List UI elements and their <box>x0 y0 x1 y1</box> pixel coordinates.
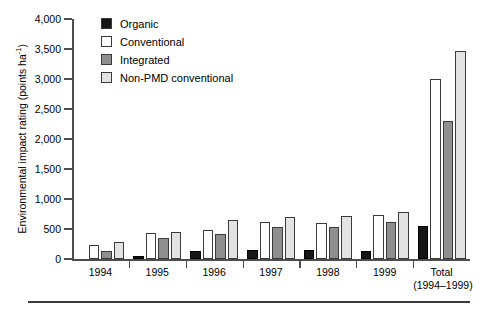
y-tick-label-500: 500 <box>43 223 61 235</box>
bar-1996-non-pmd-conventional <box>228 220 239 259</box>
legend-item-organic: Organic <box>101 16 233 32</box>
y-tick-label-1000: 1,000 <box>35 193 61 205</box>
chart-figure: Environmental impact rating (points ha-1… <box>0 0 482 312</box>
bar-1997-conventional <box>260 222 271 259</box>
x-axis-label-total: Total(1994–1999) <box>413 266 470 292</box>
legend-item-non-pmd-conventional: Non-PMD conventional <box>101 70 233 86</box>
bar-1995-integrated <box>158 238 169 259</box>
bar-1996-organic <box>190 251 201 259</box>
y-tick-1500 <box>64 168 72 169</box>
y-tick-label-3000: 3,000 <box>35 73 61 85</box>
bar-group-total <box>418 19 466 259</box>
y-tick-label-2500: 2,500 <box>35 103 61 115</box>
bar-1997-organic <box>247 250 258 259</box>
bar-total-integrated <box>443 121 454 259</box>
legend-item-integrated: Integrated <box>101 52 233 68</box>
bar-group-1997 <box>247 19 295 259</box>
y-tick-3500 <box>64 48 72 49</box>
y-axis-title: Environmental impact rating (points ha-1… <box>14 14 28 264</box>
bar-1998-conventional <box>316 223 327 259</box>
x-axis-sublabel-total: (1994–1999) <box>413 279 470 292</box>
bar-1999-conventional <box>373 215 384 259</box>
bar-group-1998 <box>304 19 352 259</box>
legend-swatch-icon-conventional <box>101 36 112 47</box>
x-axis-label-1999: 1999 <box>356 266 413 279</box>
y-tick-label-2000: 2,000 <box>35 133 61 145</box>
y-tick-4000 <box>64 18 72 19</box>
x-axis-label-1994: 1994 <box>72 266 129 279</box>
legend-label: Non-PMD conventional <box>120 72 233 84</box>
y-axis-line <box>72 19 74 260</box>
bar-1994-conventional <box>89 245 100 259</box>
y-tick-label-0: 0 <box>55 253 61 265</box>
bar-1994-non-pmd-conventional <box>114 242 125 259</box>
bar-1998-organic <box>304 250 315 259</box>
bar-total-non-pmd-conventional <box>455 51 466 259</box>
y-tick-3000 <box>64 78 72 79</box>
bar-group-1999 <box>361 19 409 259</box>
y-tick-500 <box>64 228 72 229</box>
legend-label: Integrated <box>120 54 170 66</box>
x-axis-label-1998: 1998 <box>299 266 356 279</box>
bar-1999-integrated <box>386 222 397 259</box>
y-tick-label-4000: 4,000 <box>35 13 61 25</box>
y-tick-2500 <box>64 108 72 109</box>
legend-swatch-icon-non-pmd-conventional <box>101 72 112 83</box>
y-tick-2000 <box>64 138 72 139</box>
y-tick-label-3500: 3,500 <box>35 43 61 55</box>
bar-total-conventional <box>430 79 441 259</box>
y-tick-label-1500: 1,500 <box>35 163 61 175</box>
bar-1999-non-pmd-conventional <box>398 212 409 259</box>
bar-1995-conventional <box>146 233 157 259</box>
bar-1999-organic <box>361 251 372 259</box>
bar-1997-non-pmd-conventional <box>285 217 296 259</box>
chart-legend: OrganicConventionalIntegratedNon-PMD con… <box>101 16 233 88</box>
legend-label: Organic <box>120 18 159 30</box>
legend-label: Conventional <box>120 36 184 48</box>
bar-1997-integrated <box>272 227 283 259</box>
bar-1996-integrated <box>215 234 226 259</box>
bar-1996-conventional <box>203 230 214 259</box>
x-axis-label-1996: 1996 <box>186 266 243 279</box>
legend-swatch-icon-organic <box>101 18 112 29</box>
x-axis-line <box>72 259 470 261</box>
bar-1995-non-pmd-conventional <box>171 232 182 259</box>
bar-1998-non-pmd-conventional <box>341 216 352 259</box>
bar-1994-integrated <box>101 251 112 259</box>
y-tick-0 <box>64 258 72 259</box>
y-tick-1000 <box>64 198 72 199</box>
bar-1998-integrated <box>329 227 340 259</box>
bottom-rule <box>28 301 470 303</box>
x-axis-label-1997: 1997 <box>243 266 300 279</box>
legend-item-conventional: Conventional <box>101 34 233 50</box>
legend-swatch-icon-integrated <box>101 54 112 65</box>
bar-total-organic <box>418 226 429 259</box>
x-axis-label-1995: 1995 <box>129 266 186 279</box>
bar-1995-organic <box>133 256 144 259</box>
